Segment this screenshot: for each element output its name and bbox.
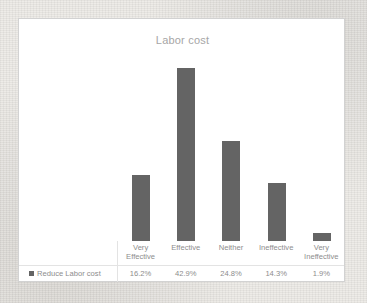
category-label-line2: Effective xyxy=(126,252,155,261)
value-effective: 42.9% xyxy=(163,265,208,282)
category-label-ineffective: Ineffective xyxy=(254,241,299,265)
bar-slot-very-ineffective xyxy=(300,59,345,241)
bar-effective[interactable] xyxy=(177,68,195,242)
category-header-row: Very Effective Effective Neither Ineffec… xyxy=(19,241,344,266)
value-neither: 24.8% xyxy=(208,265,253,282)
category-label-very-effective: Very Effective xyxy=(118,241,163,265)
category-label-neither: Neither xyxy=(208,241,253,265)
category-label-line1: Very xyxy=(314,243,329,252)
bar-slot-ineffective xyxy=(254,59,299,241)
bar-slot-very-effective xyxy=(118,59,163,241)
value-very-effective: 16.2% xyxy=(118,265,163,282)
category-label-line1: Effective xyxy=(171,243,200,252)
chart-data-table: Very Effective Effective Neither Ineffec… xyxy=(19,241,344,282)
chart-title: Labor cost xyxy=(19,34,346,46)
plot-area xyxy=(118,59,345,241)
category-label-very-ineffective: Very Ineffective xyxy=(299,241,344,265)
value-very-ineffective: 1.9% xyxy=(299,265,344,282)
category-label-line1: Very xyxy=(133,243,148,252)
category-row-label-cell xyxy=(19,241,118,265)
category-label-line1: Ineffective xyxy=(259,243,293,252)
bar-very-effective[interactable] xyxy=(132,175,150,241)
bar-neither[interactable] xyxy=(222,141,240,241)
value-row: Reduce Labor cost 16.2% 42.9% 24.8% 14.3… xyxy=(19,265,344,282)
category-label-line1: Neither xyxy=(219,243,243,252)
category-label-line2: Ineffective xyxy=(304,252,338,261)
chart-frame: Labor cost Very Effective xyxy=(18,18,345,282)
bar-very-ineffective[interactable] xyxy=(313,233,331,241)
legend-label: Reduce Labor cost xyxy=(37,269,101,278)
bar-slot-effective xyxy=(163,59,208,241)
bar-slot-neither xyxy=(209,59,254,241)
legend-entry[interactable]: Reduce Labor cost xyxy=(19,265,118,282)
value-ineffective: 14.3% xyxy=(254,265,299,282)
bar-ineffective[interactable] xyxy=(268,183,286,241)
legend-swatch-icon xyxy=(29,271,34,276)
category-label-effective: Effective xyxy=(163,241,208,265)
